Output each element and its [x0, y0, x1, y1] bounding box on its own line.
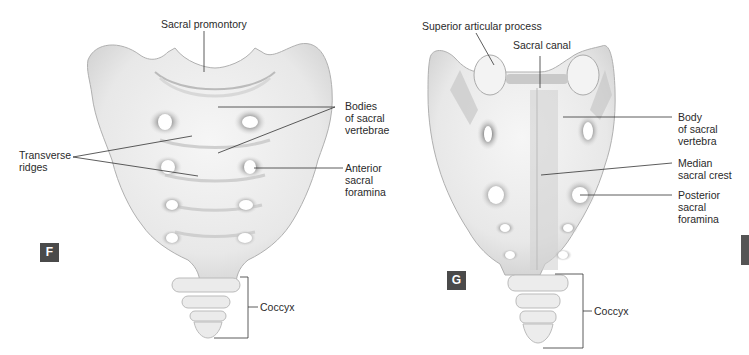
label-superior-articular-process: Superior articular process [422, 20, 542, 32]
label-anterior-sacral-foramina: Anterior sacral foramina [345, 162, 386, 198]
label-body-of-sacral-vertebra: Body of sacral vertebra [678, 111, 718, 147]
label-line: vertebrae [345, 124, 389, 136]
label-line: of sacral [345, 112, 389, 124]
label-sacral-promontory: Sacral promontory [161, 18, 247, 30]
label-posterior-sacral-foramina: Posterior sacral foramina [678, 189, 720, 225]
label-line: Body [678, 111, 718, 123]
coccyx-posterior [508, 275, 568, 343]
label-line: Transverse [19, 149, 71, 161]
label-bodies-of-sacral-vertebrae: Bodies of sacral vertebrae [345, 100, 389, 136]
label-line: Anterior [345, 162, 386, 174]
label-line: sacral crest [678, 169, 732, 181]
figure-badge-g: G [447, 271, 466, 290]
label-sacral-canal: Sacral canal [513, 39, 571, 51]
label-coccyx-f: Coccyx [260, 301, 294, 313]
figure-badge-f: F [40, 243, 59, 262]
coccyx-anterior [172, 278, 240, 338]
sacrum-posterior-view [428, 45, 615, 343]
label-line: sacral [678, 201, 720, 213]
label-line: ridges [19, 161, 71, 173]
label-line: vertebra [678, 135, 718, 147]
label-median-sacral-crest: Median sacral crest [678, 157, 732, 181]
sacrum-anterior-view [87, 43, 332, 338]
label-line: foramina [345, 186, 386, 198]
page-edge-tab [741, 235, 749, 265]
label-coccyx-g: Coccyx [594, 305, 628, 317]
label-line: Bodies [345, 100, 389, 112]
label-line: sacral [345, 174, 386, 186]
label-line: of sacral [678, 123, 718, 135]
label-line: foramina [678, 213, 720, 225]
label-line: Median [678, 157, 732, 169]
label-line: Posterior [678, 189, 720, 201]
label-transverse-ridges: Transverse ridges [19, 149, 71, 173]
